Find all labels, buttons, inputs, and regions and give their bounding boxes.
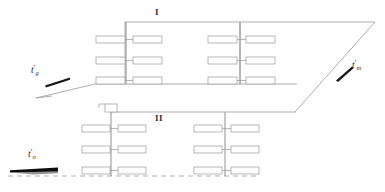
section-one-right-diagonal [295,22,375,112]
axle-block-right [231,146,259,153]
arrow-t-prime-g-head [45,78,70,88]
axle-row [96,36,162,43]
label-t-prime-n: t′n [28,148,36,160]
arrow-t-prime-m [336,67,354,83]
axle-block-left [82,167,110,174]
axle-block-left [96,57,125,64]
label-t-prime-m: t′m [352,59,361,71]
section-one-left-slope [36,84,95,98]
section-two-left-axle-group [82,112,146,176]
label-t-prime-n-subscript: n [32,153,35,160]
section-one-right-axle-group [208,22,275,84]
axle-block-left [82,146,110,153]
axle-block-left [208,57,237,64]
axle-block-right [231,167,259,174]
arrow-t-prime-m-head [336,67,354,83]
label-t-prime-m-subscript: m [356,64,361,71]
axle-block-left [96,36,125,43]
axle-row [208,77,275,84]
arrow-t-prime-n [10,168,58,175]
axle-row [208,57,275,64]
axle-block-left [194,146,222,153]
section-two-outline [8,112,296,176]
connector-box-body [105,104,117,112]
section-two-right-axle-group [194,112,259,176]
section-one-left-axle-group [96,22,162,84]
axle-block-right [118,125,146,132]
axle-block-left [208,36,237,43]
schematic-drawing [0,0,385,192]
axle-row [208,36,275,43]
axle-block-left [208,77,237,84]
axle-row [194,146,259,153]
axle-row [82,146,146,153]
axle-block-right [246,36,275,43]
axle-row [82,125,146,132]
axle-block-left [96,77,125,84]
axle-row [194,125,259,132]
axle-row [96,77,162,84]
label-t-prime-g-subscript: g [35,69,38,76]
axle-row [194,167,259,174]
section-one-outline [36,22,375,112]
axle-block-right [231,125,259,132]
diagram-canvas: I II t′g t′m t′n [0,0,385,192]
axle-row [82,167,146,174]
axle-block-right [246,57,275,64]
axle-block-right [246,77,275,84]
axle-block-right [133,77,162,84]
axle-block-right [133,57,162,64]
axle-block-left [194,167,222,174]
axle-block-left [194,125,222,132]
axle-block-right [118,146,146,153]
axle-block-right [118,167,146,174]
section-two-label: II [155,113,163,123]
connector-box [99,104,117,112]
axle-row [96,57,162,64]
axle-block-left [82,125,110,132]
arrow-t-prime-g [45,78,70,88]
axle-block-right [133,36,162,43]
label-t-prime-g: t′g [31,64,39,76]
section-one-label: I [155,7,159,17]
